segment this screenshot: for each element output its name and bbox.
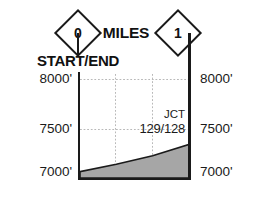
y-tick-left-8000: 8000'	[39, 72, 72, 86]
junction-label: JCT	[100, 108, 185, 121]
axis-line-right	[188, 33, 190, 180]
start-end-label: START/END	[14, 52, 142, 70]
y-tick-left-7000: 7000'	[39, 165, 72, 179]
y-tick-right-7000: 7000'	[200, 165, 233, 179]
miles-axis-title: MILES	[89, 23, 163, 43]
junction-numbers: 129/128	[100, 121, 185, 136]
elevation-profile-chart: 0 1 MILES START/END 8000' 7500' 7000' 80…	[0, 0, 253, 202]
y-tick-left-7500: 7500'	[39, 122, 72, 136]
axis-line-left	[78, 72, 80, 180]
y-tick-right-7500: 7500'	[200, 122, 233, 136]
axis-line-bottom	[78, 178, 191, 180]
junction-annotation: JCT 129/128	[100, 108, 185, 136]
y-tick-right-8000: 8000'	[200, 72, 233, 86]
